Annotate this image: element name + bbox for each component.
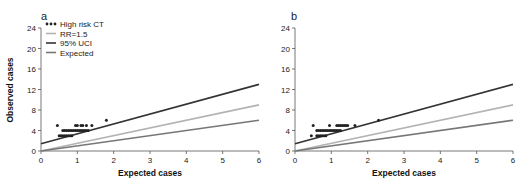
- figure-svg: a 012345604812162024 Expected cases Obse…: [0, 0, 523, 186]
- x-tick-label: 0: [39, 156, 44, 165]
- legend-item: 95% UCI: [46, 39, 92, 48]
- data-point: [312, 124, 315, 127]
- axes: 012345604812162024: [281, 24, 516, 165]
- y-tick-label: 12: [27, 86, 36, 95]
- y-tick-label: 8: [32, 106, 37, 115]
- x-tick-label: 6: [511, 156, 516, 165]
- data-point: [339, 129, 342, 132]
- x-tick-label: 4: [184, 156, 189, 165]
- panel-b: b 012345604812162024 Expected cases: [281, 10, 516, 178]
- x-axis-label: Expected cases: [372, 168, 436, 178]
- legend-label: Expected: [60, 49, 93, 58]
- legend-label: 95% UCI: [60, 39, 92, 48]
- y-tick-label: 20: [281, 45, 290, 54]
- x-tick-label: 2: [365, 156, 370, 165]
- legend-label: RR=1.5: [60, 30, 88, 39]
- data-point: [70, 134, 73, 137]
- data-point: [56, 124, 59, 127]
- line-rr-1-5: [41, 105, 259, 151]
- panel-label: a: [41, 10, 48, 22]
- y-tick-label: 4: [32, 127, 37, 136]
- data-point: [85, 124, 88, 127]
- legend-item: RR=1.5: [46, 30, 88, 39]
- data-point: [81, 124, 84, 127]
- y-tick-label: 20: [27, 45, 36, 54]
- panel-label: b: [291, 10, 297, 22]
- data-point: [87, 129, 90, 132]
- data-point: [346, 124, 349, 127]
- x-tick-label: 5: [220, 156, 225, 165]
- reference-lines: [41, 84, 259, 151]
- figure: a 012345604812162024 Expected cases Obse…: [0, 0, 523, 186]
- x-tick-label: 6: [257, 156, 262, 165]
- data-point: [377, 119, 380, 122]
- x-tick-label: 4: [438, 156, 443, 165]
- x-tick-label: 3: [148, 156, 153, 165]
- line-rr-1-5: [295, 105, 513, 151]
- scatter-points: [310, 119, 380, 137]
- legend-label: High risk CT: [60, 20, 104, 29]
- y-tick-label: 16: [27, 65, 36, 74]
- x-tick-label: 1: [329, 156, 334, 165]
- legend-item: Expected: [46, 49, 93, 58]
- x-tick-label: 2: [111, 156, 116, 165]
- data-point: [353, 124, 356, 127]
- data-point: [310, 134, 313, 137]
- data-point: [90, 124, 93, 127]
- x-tick-label: 1: [75, 156, 80, 165]
- reference-lines: [295, 84, 513, 151]
- legend: High risk CTRR=1.595% UCIExpected: [46, 20, 105, 58]
- y-tick-label: 0: [286, 147, 291, 156]
- x-tick-label: 0: [293, 156, 298, 165]
- y-tick-label: 24: [27, 24, 36, 33]
- y-tick-label: 8: [286, 106, 291, 115]
- y-tick-label: 4: [286, 127, 291, 136]
- data-point: [76, 124, 79, 127]
- x-axis-label: Expected cases: [118, 168, 182, 178]
- y-tick-label: 24: [281, 24, 290, 33]
- legend-item: High risk CT: [46, 20, 105, 29]
- y-tick-label: 16: [281, 65, 290, 74]
- y-axis-label: Observed cases: [5, 57, 15, 122]
- panel-a: a 012345604812162024 Expected cases Obse…: [5, 10, 262, 178]
- y-tick-label: 0: [32, 147, 37, 156]
- x-tick-label: 3: [402, 156, 407, 165]
- legend-marker-icon: [54, 23, 57, 26]
- legend-marker-icon: [46, 23, 49, 26]
- x-tick-label: 5: [474, 156, 479, 165]
- data-point: [324, 134, 327, 137]
- data-point: [105, 119, 108, 122]
- data-point: [328, 124, 331, 127]
- legend-marker-icon: [50, 23, 53, 26]
- y-tick-label: 12: [281, 86, 290, 95]
